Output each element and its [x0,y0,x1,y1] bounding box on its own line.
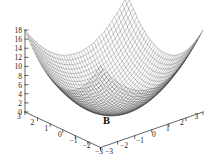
x-tick-label-3: 0 [58,131,62,139]
z-tick-label-5: 8 [8,73,22,81]
surface-plot-canvas [0,0,216,161]
z-tick-label-8: 2 [8,100,22,108]
y-tick-label-0: −3 [105,148,113,156]
x-tick-label-1: 2 [31,119,35,127]
y-tick-label-1: −2 [120,142,128,150]
y-tick-label-5: 2 [180,119,184,127]
z-tick-label-3: 12 [8,54,22,62]
y-tick-label-2: −1 [136,137,144,145]
y-tick-label-3: 0 [152,131,156,139]
y-tick-label-4: 1 [166,125,170,133]
z-tick-label-1: 16 [8,36,22,44]
x-tick-label-2: 1 [45,125,49,133]
x-tick-label-0: 3 [17,113,21,121]
surface-plot-figure: 181614121086420 3210−1−2−3 −3−2−10123 B [0,0,216,161]
z-tick-label-0: 18 [8,27,22,35]
surface-mesh [25,0,203,116]
x-tick-label-5: −2 [83,142,91,150]
z-tick-label-7: 4 [8,91,22,99]
x-tick-label-4: −1 [70,137,78,145]
x-tick-label-6: −3 [95,148,103,156]
plot-label-b: B [103,116,110,127]
y-tick-label-6: 3 [195,113,199,121]
z-tick-label-2: 14 [8,45,22,53]
z-tick-label-4: 10 [8,63,22,71]
z-tick-label-6: 6 [8,82,22,90]
